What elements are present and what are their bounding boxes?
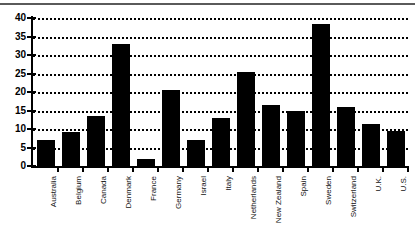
bar-chart-figure: 0510152025303540 AustraliaBelgiumCanadaD…	[0, 0, 415, 232]
x-tick-mark-11	[332, 166, 334, 172]
x-tick-mark-4	[157, 166, 159, 172]
x-tick-mark-12	[357, 166, 359, 172]
x-axis-label-canada: Canada	[99, 176, 108, 204]
x-axis-label-australia: Australia	[49, 176, 58, 207]
y-tick-mark-15	[27, 110, 36, 112]
x-tick-mark-5	[182, 166, 184, 172]
x-axis-label-germany: Germany	[174, 176, 183, 209]
y-tick-mark-40	[27, 17, 36, 19]
x-tick-mark-9	[282, 166, 284, 172]
x-tick-mark-0	[57, 166, 59, 172]
x-axis-category-labels: AustraliaBelgiumCanadaDenmarkFranceGerma…	[0, 0, 415, 232]
y-tick-mark-20	[27, 91, 36, 93]
x-tick-mark-13	[382, 166, 384, 172]
x-tick-mark-7	[232, 166, 234, 172]
x-axis-label-denmark: Denmark	[124, 176, 133, 208]
x-axis-label-new-zealand: New Zealand	[274, 176, 283, 223]
x-axis-label-switzerland: Switzerland	[349, 176, 358, 217]
x-tick-mark-14	[407, 166, 409, 172]
x-tick-mark-8	[257, 166, 259, 172]
y-tick-mark-0	[27, 165, 36, 167]
x-axis-label-u-s: U.S.	[399, 176, 408, 192]
x-tick-mark-10	[307, 166, 309, 172]
x-axis-label-u-k: U.K.	[374, 176, 383, 192]
x-axis-label-spain: Spain	[299, 176, 308, 196]
x-axis-label-italy: Italy	[224, 176, 233, 191]
x-axis-label-belgium: Belgium	[74, 176, 83, 205]
y-tick-mark-35	[27, 36, 36, 38]
x-tick-mark-2	[107, 166, 109, 172]
y-tick-mark-25	[27, 73, 36, 75]
x-axis-label-sweden: Sweden	[324, 176, 333, 205]
y-tick-mark-30	[27, 54, 36, 56]
x-axis-label-israel: Israel	[199, 176, 208, 196]
y-tick-mark-10	[27, 128, 36, 130]
x-tick-mark-6	[207, 166, 209, 172]
x-axis-label-france: France	[149, 176, 158, 201]
x-tick-mark-3	[132, 166, 134, 172]
x-tick-mark-1	[82, 166, 84, 172]
x-axis-label-netherlands: Netherlands	[249, 176, 258, 219]
y-tick-mark-5	[27, 147, 36, 149]
